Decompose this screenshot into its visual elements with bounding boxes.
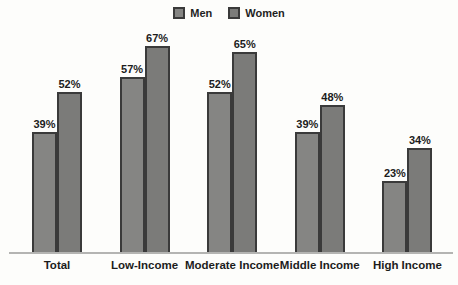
value-label-men-total: 39% bbox=[33, 118, 55, 130]
bar-women-low-income bbox=[145, 46, 170, 252]
x-axis-line bbox=[9, 252, 453, 254]
bar-group-high-income: 23%34% bbox=[382, 134, 432, 252]
value-label-men-moderate-income: 52% bbox=[209, 78, 231, 90]
value-label-women-moderate-income: 65% bbox=[234, 38, 256, 50]
bar-women-moderate-income bbox=[232, 52, 257, 252]
value-label-women-low-income: 67% bbox=[146, 32, 168, 44]
bar-women-middle-income bbox=[320, 105, 345, 252]
bar-chart-figure: Men Women 39%52%Total57%67%Low-Income52%… bbox=[0, 0, 458, 285]
value-label-men-middle-income: 39% bbox=[296, 118, 318, 130]
category-label-total: Total bbox=[7, 259, 107, 271]
bar-men-total bbox=[32, 132, 57, 252]
category-label-middle-income: Middle Income bbox=[270, 259, 370, 271]
bar-women-high-income bbox=[407, 148, 432, 252]
bar-group-total: 39%52% bbox=[32, 78, 82, 252]
bar-men-moderate-income bbox=[207, 92, 232, 252]
bar-men-low-income bbox=[120, 77, 145, 252]
bar-group-middle-income: 39%48% bbox=[295, 91, 345, 252]
value-label-men-high-income: 23% bbox=[384, 167, 406, 179]
value-label-women-total: 52% bbox=[58, 78, 80, 90]
bar-men-high-income bbox=[382, 181, 407, 252]
category-label-high-income: High Income bbox=[357, 259, 457, 271]
plot-area: 39%52%Total57%67%Low-Income52%65%Moderat… bbox=[0, 0, 458, 285]
bar-women-total bbox=[57, 92, 82, 252]
value-label-men-low-income: 57% bbox=[121, 63, 143, 75]
bar-men-middle-income bbox=[295, 132, 320, 252]
category-label-moderate-income: Moderate Income bbox=[182, 259, 282, 271]
category-label-low-income: Low-Income bbox=[95, 259, 195, 271]
value-label-women-high-income: 34% bbox=[409, 134, 431, 146]
value-label-women-middle-income: 48% bbox=[321, 91, 343, 103]
bar-group-moderate-income: 52%65% bbox=[207, 38, 257, 252]
bar-group-low-income: 57%67% bbox=[120, 32, 170, 252]
